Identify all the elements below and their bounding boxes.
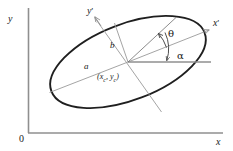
origin-label: 0	[19, 134, 24, 144]
ellipse-outline	[38, 0, 218, 127]
alpha-label: α	[177, 51, 184, 61]
theta-label: θ	[168, 29, 174, 39]
global-axes-group	[28, 8, 223, 133]
y-prime-axis-label: y'	[87, 6, 93, 16]
x-axis-label: x	[216, 137, 220, 147]
point-radius-line	[128, 18, 176, 63]
y-prime-axis-line	[95, 18, 162, 113]
center-coordinates-label: (xc, yc)	[97, 73, 119, 83]
y-prime-tick: '	[91, 6, 93, 16]
x-prime-axis-label: x'	[213, 18, 219, 28]
semi-major-label: a	[84, 62, 89, 71]
y-axis-label: y	[8, 14, 12, 24]
semi-minor-label: b	[110, 41, 115, 50]
point-radius-group	[128, 18, 176, 63]
x-prime-tick: '	[217, 18, 219, 28]
ellipse-group	[38, 0, 218, 127]
center-paren-close: )	[116, 72, 119, 81]
y-prime-axis-arrow	[95, 17, 101, 26]
ellipse-diagram-figure: y x 0 y' x' a b θ α (xc, yc)	[0, 0, 233, 151]
semi-minor-line	[115, 23, 129, 62]
theta-arc	[159, 34, 167, 48]
